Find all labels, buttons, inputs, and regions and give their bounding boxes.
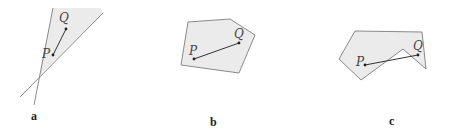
point-q — [417, 54, 420, 57]
figure-label-b: b — [210, 115, 217, 129]
point-q — [65, 28, 68, 31]
point-p — [52, 54, 55, 57]
figure-label-a: a — [31, 109, 37, 123]
figure-label-c: c — [389, 114, 395, 128]
wedge-region — [39, 8, 103, 76]
label-p: P — [188, 44, 198, 58]
point-p — [193, 58, 196, 61]
figure-b: P Q b — [181, 19, 255, 129]
label-p: P — [355, 55, 365, 69]
figure-c: P Q c — [339, 31, 426, 128]
figure-a: P Q a — [20, 8, 103, 123]
convexity-diagram: P Q a P Q b P Q c — [0, 0, 450, 135]
label-q: Q — [234, 27, 244, 41]
label-q: Q — [413, 39, 423, 53]
point-q — [238, 42, 241, 45]
label-q: Q — [59, 11, 69, 25]
label-p: P — [41, 47, 51, 61]
